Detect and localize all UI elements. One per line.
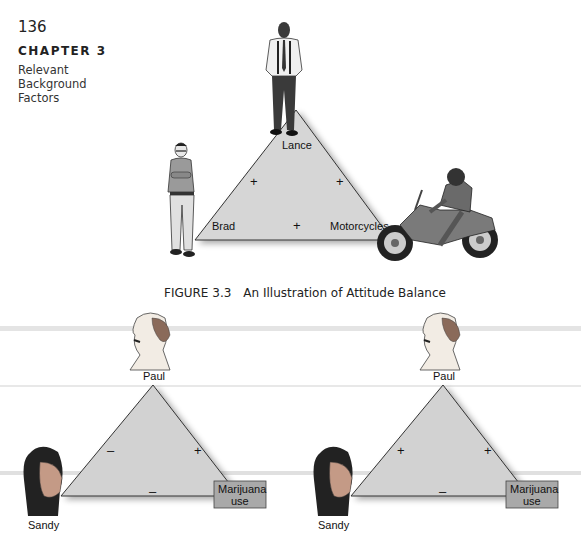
relation-sign-right: + <box>336 174 344 189</box>
relation-sign-right: + <box>484 443 492 458</box>
relation-sign-left: + <box>397 443 405 458</box>
band-line <box>0 326 581 331</box>
node-label-top: Lance <box>282 139 312 151</box>
band-line <box>0 385 581 387</box>
relation-sign-base: + <box>293 218 301 233</box>
node-label-right-line2: use <box>523 495 541 507</box>
attitude-balance-figure: Lance Brad Motorcycles + + + <box>168 22 498 261</box>
paul-head-icon <box>420 313 460 370</box>
figure-caption-number: FIGURE 3.3 <box>164 286 231 300</box>
brad-person-icon <box>168 143 195 257</box>
node-label-left: Brad <box>212 220 235 232</box>
relation-sign-left: – <box>107 443 115 458</box>
sandy-head-icon <box>314 447 353 516</box>
relation-sign-left: + <box>250 174 258 189</box>
balance-triangle <box>351 385 529 496</box>
balance-triangle <box>61 385 239 496</box>
balance-diagram-2: Marijuana use Paul Sandy + + – <box>314 313 560 531</box>
node-label-top: Paul <box>433 370 455 382</box>
node-label-right: Motorcycles <box>330 220 389 232</box>
motorcycle-rider-icon <box>377 168 498 261</box>
figure-caption-title: An Illustration of Attitude Balance <box>243 286 446 300</box>
figure-caption: FIGURE 3.3An Illustration of Attitude Ba… <box>164 286 446 300</box>
node-label-left: Sandy <box>28 519 60 531</box>
relation-sign-base: – <box>439 484 447 499</box>
sandy-head-icon <box>24 447 63 516</box>
node-label-right-line2: use <box>231 495 249 507</box>
figure-canvas: Lance Brad Motorcycles + + + <box>0 0 581 546</box>
relation-sign-right: + <box>194 443 202 458</box>
node-label-left: Sandy <box>318 519 350 531</box>
balance-diagram-1: Marijuana use Paul Sandy – + – <box>24 313 268 531</box>
node-label-right-line1: Marijuana <box>510 483 559 495</box>
node-label-right-line1: Marijuana <box>218 483 267 495</box>
node-label-top: Paul <box>143 370 165 382</box>
relation-sign-base: – <box>149 484 157 499</box>
paul-head-icon <box>130 313 170 370</box>
